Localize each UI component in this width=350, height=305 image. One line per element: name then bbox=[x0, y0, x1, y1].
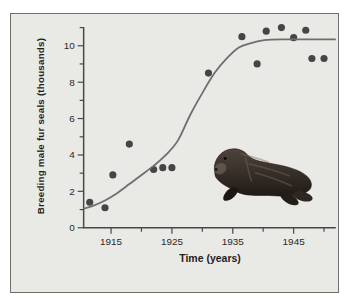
y-axis-title: Breeding male fur seals (thousands) bbox=[35, 38, 46, 214]
y-tick-label: 10 bbox=[64, 40, 76, 51]
x-tick-label: 1925 bbox=[161, 236, 184, 247]
x-tick-label: 1945 bbox=[283, 236, 306, 247]
data-point bbox=[278, 24, 285, 31]
data-point bbox=[159, 164, 166, 171]
data-point bbox=[263, 28, 270, 35]
figure-canvas: 02468101915192519351945 Breeding male fu… bbox=[0, 0, 350, 305]
seal-front-flipper bbox=[223, 187, 238, 201]
y-tick-label: 6 bbox=[69, 113, 75, 124]
data-point bbox=[101, 204, 108, 211]
x-tick-label: 1915 bbox=[100, 236, 123, 247]
data-point bbox=[168, 164, 175, 171]
data-point bbox=[109, 171, 116, 178]
plot-area: 02468101915192519351945 bbox=[64, 24, 336, 247]
seal-body bbox=[214, 149, 311, 196]
seal-nose bbox=[215, 168, 218, 171]
x-axis-title: Time (years) bbox=[179, 252, 241, 264]
chart-panel: 02468101915192519351945 Breeding male fu… bbox=[10, 13, 339, 293]
y-tick-label: 4 bbox=[69, 149, 75, 160]
seal-eye bbox=[224, 157, 227, 160]
data-point bbox=[238, 33, 245, 40]
data-point bbox=[126, 140, 133, 147]
x-tick-label: 1935 bbox=[222, 236, 245, 247]
y-tick-label: 0 bbox=[69, 222, 75, 233]
y-tick-label: 2 bbox=[69, 186, 75, 197]
data-point bbox=[86, 199, 93, 206]
chart-svg: 02468101915192519351945 bbox=[11, 14, 338, 292]
data-point bbox=[308, 55, 315, 62]
fur-seal-illustration bbox=[202, 149, 313, 205]
data-point bbox=[320, 55, 327, 62]
data-point bbox=[205, 70, 212, 77]
data-point bbox=[254, 60, 261, 67]
y-tick-label: 8 bbox=[69, 77, 75, 88]
data-point bbox=[302, 27, 309, 34]
